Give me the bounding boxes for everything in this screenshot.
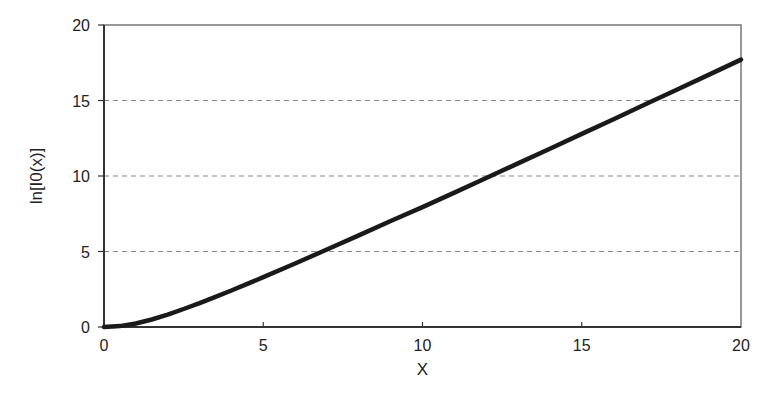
x-axis-label: X [417, 360, 428, 379]
y-tick-label: 20 [72, 17, 90, 34]
y-tick-label: 5 [81, 244, 90, 261]
series-layer [104, 60, 741, 327]
x-tick-label: 20 [732, 337, 750, 354]
y-axis-ticks: 05101520 [72, 17, 104, 336]
y-tick-label: 10 [72, 168, 90, 185]
y-tick-label: 15 [72, 93, 90, 110]
x-tick-label: 15 [573, 337, 591, 354]
gridlines [104, 101, 741, 252]
y-tick-label: 0 [81, 319, 90, 336]
x-tick-label: 5 [259, 337, 268, 354]
x-tick-label: 0 [100, 337, 109, 354]
chart: 05101520 05101520 X ln[I0(x)] [0, 0, 780, 402]
x-tick-label: 10 [414, 337, 432, 354]
y-axis-label: ln[I0(x)] [27, 148, 46, 205]
series-line [104, 60, 741, 327]
chart-svg: 05101520 05101520 X ln[I0(x)] [0, 0, 780, 402]
